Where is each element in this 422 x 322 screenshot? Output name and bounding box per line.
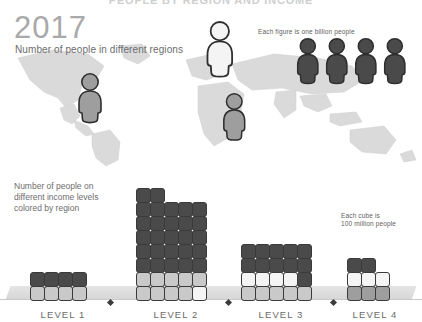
figure-africa: [220, 92, 249, 141]
cube: [192, 244, 207, 259]
cube: [178, 216, 193, 231]
cube: [44, 286, 59, 301]
cube: [150, 230, 165, 245]
cube-legend-line-2: 100 million people: [341, 220, 396, 228]
separator-1: [107, 299, 114, 306]
cube: [192, 230, 207, 245]
cube-column: [44, 272, 58, 300]
cube: [375, 272, 390, 287]
clipped-page-title: PEOPLE BY REGION AND INCOME: [0, 0, 422, 6]
cube: [192, 202, 207, 217]
cube: [136, 272, 151, 287]
cube: [361, 272, 376, 287]
cube-column: [375, 272, 389, 300]
income-chart-label: Number of people on different income lev…: [14, 181, 98, 214]
legend-figure-1: [294, 37, 322, 85]
cube: [269, 244, 284, 259]
income-label-line-2: different income levels: [14, 192, 98, 203]
cube: [58, 286, 73, 301]
page-subtitle: Number of people in different regions: [15, 44, 183, 55]
cube: [269, 286, 284, 301]
cube-column: [58, 272, 72, 300]
cube-column: [255, 244, 269, 300]
cube: [361, 258, 376, 273]
legend-figure-3: [352, 37, 380, 85]
income-label-line-1: Number of people on: [14, 181, 98, 192]
cube: [150, 216, 165, 231]
income-label-line-3: colored by region: [14, 203, 98, 214]
cube: [375, 286, 390, 301]
cube-column: [72, 272, 86, 300]
cube: [241, 272, 256, 287]
cube-unit-legend-label: Each cube is 100 million people: [341, 212, 396, 228]
legend-figure-4: [381, 37, 409, 85]
cube: [297, 272, 312, 287]
cube: [347, 258, 362, 273]
cube: [178, 230, 193, 245]
cube-column: [269, 244, 283, 300]
cube: [136, 216, 151, 231]
cube: [297, 286, 312, 301]
cube: [72, 272, 87, 287]
cube: [283, 244, 298, 259]
cube: [241, 286, 256, 301]
cube: [150, 272, 165, 287]
cube: [347, 272, 362, 287]
cube: [192, 258, 207, 273]
infographic-canvas: PEOPLE BY REGION AND INCOME: [0, 0, 422, 322]
cube: [164, 230, 179, 245]
cube: [255, 258, 270, 273]
cube-stack-2: [136, 188, 206, 300]
figure-unit-legend-label: Each figure is one billion people: [258, 28, 355, 35]
cube: [164, 258, 179, 273]
legend-figure-2: [323, 37, 351, 85]
cube: [164, 244, 179, 259]
cube: [241, 244, 256, 259]
cube: [255, 272, 270, 287]
cube: [164, 216, 179, 231]
cube: [269, 272, 284, 287]
cube: [361, 286, 376, 301]
cube: [241, 258, 256, 273]
cube: [283, 258, 298, 273]
cube: [178, 286, 193, 301]
cube: [178, 272, 193, 287]
cube: [297, 244, 312, 259]
cube-column: [164, 202, 178, 300]
cube: [178, 258, 193, 273]
cube: [150, 258, 165, 273]
cube-column: [136, 188, 150, 300]
cube-column: [297, 244, 311, 300]
cube: [44, 272, 59, 287]
cube: [269, 258, 284, 273]
cube: [30, 272, 45, 287]
figure-europe: [203, 20, 237, 78]
cube-legend-line-1: Each cube is: [341, 212, 396, 220]
level-label-4: LEVEL 4: [347, 309, 403, 320]
figure-americas: [75, 72, 105, 124]
cube-column: [150, 188, 164, 300]
cube: [150, 244, 165, 259]
cube-column: [283, 244, 297, 300]
cube-column: [192, 202, 206, 300]
cube: [283, 272, 298, 287]
cube-stack-4: [347, 258, 389, 300]
cube: [192, 272, 207, 287]
level-label-3: LEVEL 3: [241, 309, 321, 320]
page-title-year: 2017: [14, 12, 87, 43]
cube-column: [30, 272, 44, 300]
cube-stack-1: [30, 272, 86, 300]
cube: [30, 286, 45, 301]
level-label-1: LEVEL 1: [30, 309, 96, 320]
cube-column: [347, 258, 361, 300]
cube-column: [241, 244, 255, 300]
cube: [164, 202, 179, 217]
cube: [255, 244, 270, 259]
cube: [150, 202, 165, 217]
cube: [72, 286, 87, 301]
cube: [297, 258, 312, 273]
cube-column: [178, 202, 192, 300]
cube: [178, 202, 193, 217]
cube: [150, 286, 165, 301]
separator-2: [225, 299, 232, 306]
